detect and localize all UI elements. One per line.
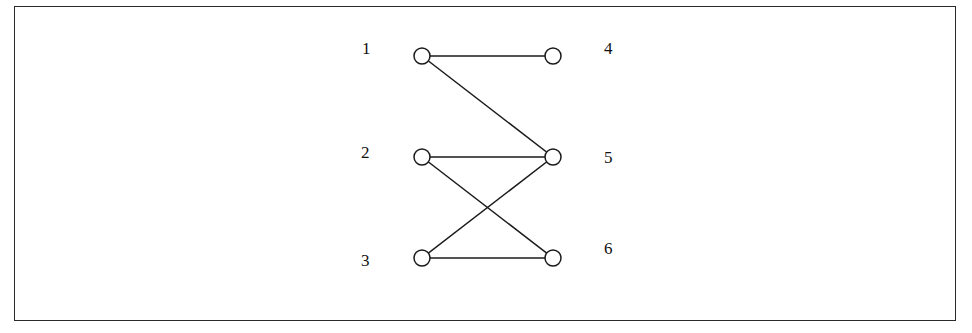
- edges-group: [422, 56, 553, 258]
- node-1: [414, 48, 430, 64]
- node-4: [545, 48, 561, 64]
- bipartite-graph: 123456: [0, 0, 972, 333]
- node-3: [414, 250, 430, 266]
- node-label-6: 6: [604, 239, 613, 258]
- node-2: [414, 149, 430, 165]
- node-label-4: 4: [604, 39, 613, 58]
- node-6: [545, 250, 561, 266]
- node-label-2: 2: [361, 143, 370, 162]
- node-label-3: 3: [361, 251, 370, 270]
- labels-group: 123456: [361, 39, 613, 270]
- node-label-1: 1: [362, 39, 371, 58]
- edge-1-5: [422, 56, 553, 157]
- node-label-5: 5: [604, 148, 613, 167]
- node-5: [545, 149, 561, 165]
